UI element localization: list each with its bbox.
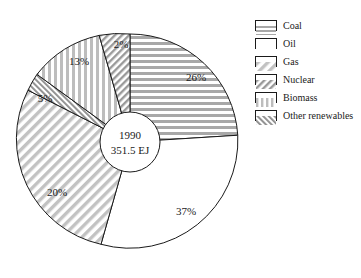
legend-swatch-other-renewables-icon: [255, 110, 277, 121]
chart-legend: Coal Oil Gas Nuclear Biomass: [255, 16, 361, 124]
legend-label-other-renewables: Other renewables: [283, 110, 353, 121]
slice-label-coal: 26%: [186, 71, 206, 83]
legend-item-gas[interactable]: Gas: [255, 52, 361, 70]
legend-item-coal[interactable]: Coal: [255, 16, 361, 34]
slice-label-oil: 37%: [176, 205, 196, 217]
slice-label-other-renewables: 5%: [38, 92, 53, 104]
legend-swatch-biomass-icon: [255, 92, 277, 103]
center-year-label: 1990: [119, 129, 142, 141]
pie-chart-figure: 1990 351.5 EJ 26% 37% 20% 5% 13% 2% Coal…: [0, 0, 361, 278]
slice-label-biomass: 13%: [69, 55, 89, 67]
legend-label-nuclear: Nuclear: [283, 74, 315, 85]
legend-item-biomass[interactable]: Biomass: [255, 88, 361, 106]
slice-label-gas: 20%: [47, 186, 67, 198]
legend-item-other-renewables[interactable]: Other renewables: [255, 106, 361, 124]
legend-swatch-gas-icon: [255, 56, 277, 67]
legend-label-coal: Coal: [283, 20, 302, 31]
legend-item-nuclear[interactable]: Nuclear: [255, 70, 361, 88]
legend-label-gas: Gas: [283, 56, 299, 67]
center-total-label: 351.5 EJ: [111, 144, 150, 156]
legend-label-oil: Oil: [283, 38, 296, 49]
legend-swatch-coal-icon: [255, 20, 277, 31]
legend-swatch-oil-icon: [255, 38, 277, 49]
legend-swatch-nuclear-icon: [255, 74, 277, 85]
legend-label-biomass: Biomass: [283, 92, 317, 103]
legend-item-oil[interactable]: Oil: [255, 34, 361, 52]
pie-center-hole: [100, 112, 160, 172]
slice-label-nuclear: 2%: [114, 38, 129, 50]
